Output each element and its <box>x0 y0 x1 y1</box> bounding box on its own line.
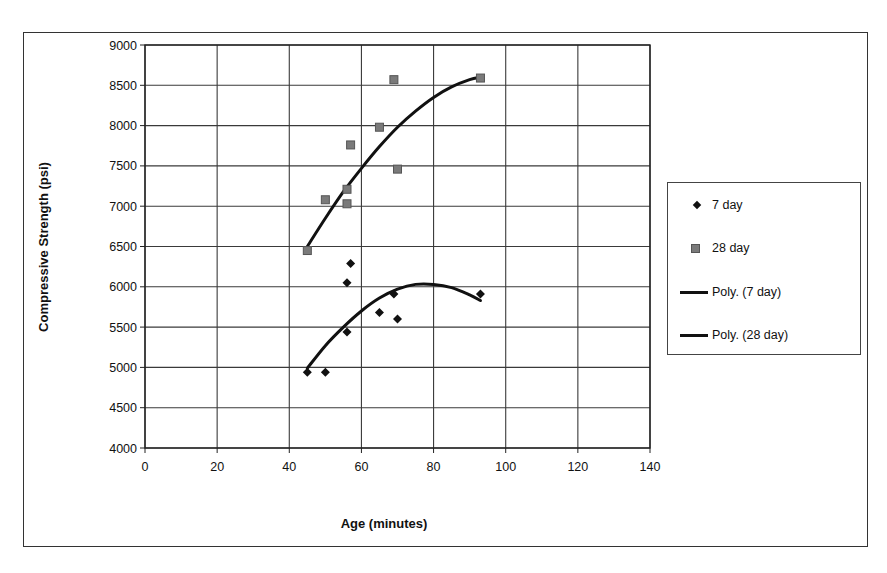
diamond-marker-icon <box>693 201 701 209</box>
legend-item-poly-7-day: Poly. (7 day) <box>668 283 781 301</box>
legend-item-28-day: 28 day <box>668 239 750 257</box>
square-marker <box>390 76 398 84</box>
legend-item-poly-28-day: Poly. (28 day) <box>668 326 788 344</box>
y-tick-label: 6500 <box>109 240 137 254</box>
x-tick-label: 120 <box>567 460 588 474</box>
legend-label: 28 day <box>712 241 750 255</box>
y-tick-label: 7000 <box>109 200 137 214</box>
y-tick-label: 7500 <box>109 159 137 173</box>
line-symbol-icon <box>680 334 708 337</box>
y-tick-label: 8000 <box>109 119 137 133</box>
line-symbol-icon <box>680 291 708 294</box>
square-marker <box>303 247 311 255</box>
x-tick-label: 60 <box>354 460 368 474</box>
square-marker <box>321 196 329 204</box>
x-tick-label: 140 <box>640 460 661 474</box>
square-marker <box>394 165 402 173</box>
diamond-marker <box>303 368 312 377</box>
x-tick-label: 0 <box>142 460 149 474</box>
square-marker-icon <box>691 244 700 253</box>
legend-label: Poly. (28 day) <box>712 328 788 342</box>
diamond-marker <box>343 327 352 336</box>
legend-label: 7 day <box>712 198 743 212</box>
legend-item-7-day: 7 day <box>668 196 743 214</box>
y-tick-label: 6000 <box>109 280 137 294</box>
x-tick-label: 40 <box>282 460 296 474</box>
gridlines <box>145 45 650 448</box>
diamond-marker <box>375 308 384 317</box>
x-tick-label: 80 <box>427 460 441 474</box>
y-tick-label: 4000 <box>109 442 137 456</box>
trendlines <box>307 77 480 368</box>
y-tick-label: 8500 <box>109 79 137 93</box>
data-markers <box>303 74 485 377</box>
legend-label: Poly. (7 day) <box>712 285 781 299</box>
square-marker <box>375 123 383 131</box>
diamond-marker <box>321 368 330 377</box>
legend: 7 day 28 day Poly. (7 day) Poly. (28 day… <box>667 182 861 355</box>
y-axis-label: Compressive Strength (psi) <box>36 162 51 332</box>
diamond-marker <box>393 315 402 324</box>
x-tick-label: 100 <box>495 460 516 474</box>
y-tick-label: 5500 <box>109 321 137 335</box>
x-axis-label: Age (minutes) <box>341 516 428 531</box>
y-tick-label: 9000 <box>109 39 137 53</box>
y-tick-label: 5000 <box>109 361 137 375</box>
diamond-marker <box>343 278 352 287</box>
trendline <box>307 77 480 246</box>
square-marker <box>476 74 484 82</box>
square-marker <box>343 200 351 208</box>
y-tick-label: 4500 <box>109 401 137 415</box>
x-tick-label: 20 <box>210 460 224 474</box>
diamond-marker <box>346 259 355 268</box>
square-marker <box>347 141 355 149</box>
square-marker <box>343 185 351 193</box>
